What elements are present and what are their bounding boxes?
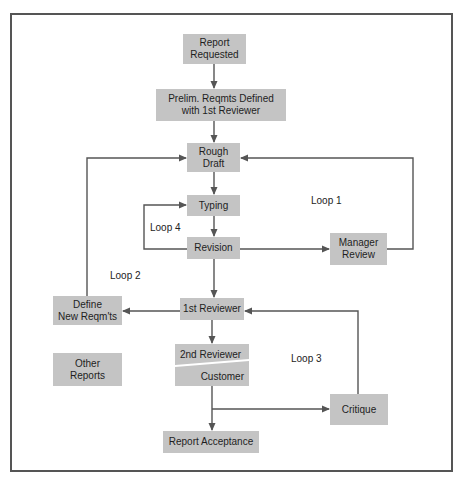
loop1-label: Loop 1	[311, 195, 342, 206]
loop2-label: Loop 2	[110, 270, 141, 281]
loop3-label: Loop 3	[291, 353, 322, 364]
node-rough-draft: Rough Draft	[187, 143, 240, 172]
node-other-reports: Other Reports	[53, 353, 122, 386]
node-report-requested: Report Requested	[183, 34, 246, 64]
node-prelim-reqmts: Prelim. Reqmts Defined with 1st Reviewer	[156, 89, 286, 121]
node-customer: Customer	[201, 371, 244, 382]
loop4-label: Loop 4	[150, 222, 181, 233]
node-define-new-reqmts: Define New Reqm'ts	[53, 296, 122, 325]
node-revision: Revision	[187, 237, 240, 259]
node-report-acceptance: Report Acceptance	[163, 431, 259, 453]
node-manager-review: Manager Review	[330, 233, 387, 265]
node-second-reviewer-customer: 2nd Reviewer Customer	[175, 344, 249, 386]
node-typing: Typing	[187, 195, 240, 216]
node-critique: Critique	[330, 394, 388, 425]
node-first-reviewer: 1st Reviewer	[180, 298, 244, 320]
node-second-reviewer: 2nd Reviewer	[180, 349, 241, 360]
